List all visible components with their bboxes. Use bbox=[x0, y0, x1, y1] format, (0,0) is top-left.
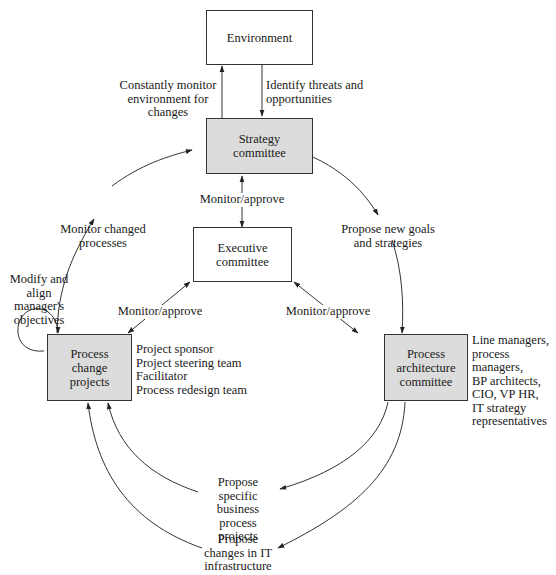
process-change-members: Project sponsor Project steering team Fa… bbox=[136, 343, 256, 397]
label-self-loop: Modify and align manager's objectives bbox=[2, 273, 76, 327]
process-change-projects-box: Process change projects bbox=[47, 334, 132, 401]
label-monitor-changed-processes: Monitor changed processes bbox=[58, 223, 148, 250]
label-exec-left-monitor: Monitor/approve bbox=[115, 305, 205, 319]
arrow-propose-goals-lower bbox=[392, 240, 403, 333]
process-change-projects-label: Process change projects bbox=[70, 347, 110, 389]
label-propose-it-changes: Propose changes in IT infrastructure bbox=[198, 533, 278, 574]
label-identify-threats: Identify threats and opportunities bbox=[266, 79, 386, 106]
process-governance-diagram: Environment Strategy committee Executive… bbox=[0, 0, 556, 575]
environment-label: Environment bbox=[227, 31, 292, 45]
arrow-it-changes-left bbox=[88, 403, 202, 548]
process-architecture-committee-box: Process architecture committee bbox=[384, 334, 468, 401]
process-architecture-committee-label: Process architecture committee bbox=[397, 347, 456, 389]
strategy-committee-label: Strategy committee bbox=[233, 132, 286, 160]
executive-committee-box: Executive committee bbox=[193, 227, 292, 282]
process-architecture-members: Line managers, process managers, BP arch… bbox=[472, 334, 556, 429]
label-strategy-executive-monitor: Monitor/approve bbox=[197, 193, 287, 207]
executive-committee-label: Executive committee bbox=[216, 241, 269, 269]
label-propose-goals: Propose new goals and strategies bbox=[338, 223, 438, 250]
arrow-it-changes-right bbox=[278, 402, 405, 548]
arrow-monitor-changed-processes-upper bbox=[112, 150, 192, 186]
arrow-bp-projects-right bbox=[280, 402, 388, 489]
environment-box: Environment bbox=[206, 10, 313, 65]
label-exec-right-monitor: Monitor/approve bbox=[283, 305, 373, 319]
strategy-committee-box: Strategy committee bbox=[206, 118, 313, 174]
arrow-bp-projects-left bbox=[108, 403, 198, 492]
label-constantly-monitor: Constantly monitor environment for chang… bbox=[118, 79, 218, 120]
